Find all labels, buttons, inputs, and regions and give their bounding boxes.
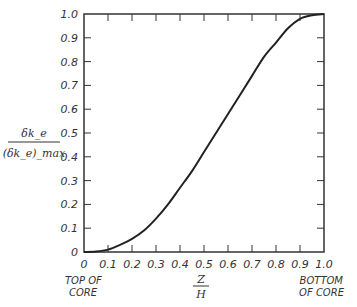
x-label-numerator: Z (196, 273, 205, 286)
x-tick-label: 0 (81, 258, 88, 271)
x-tick-label: 1.0 (315, 258, 333, 271)
x-tick-label: 0.9 (291, 258, 309, 271)
annotation-bottom-line1: BOTTOM (300, 275, 344, 286)
y-label-numerator: δk_e (21, 127, 47, 140)
x-tick-label: 0.8 (267, 258, 285, 271)
x-tick-label: 0.1 (99, 258, 117, 271)
x-tick-label: 0.3 (147, 258, 165, 271)
y-tick-label: 0.5 (61, 127, 79, 140)
plot-border (84, 14, 324, 252)
y-label-denominator: (δk_e)_max (3, 147, 66, 160)
y-tick-label: 0.9 (61, 32, 79, 45)
chart: 00.10.20.30.40.50.60.70.80.91.0 00.10.20… (0, 0, 357, 307)
annotation-top-line2: CORE (69, 287, 98, 298)
annotation-top-line1: TOP OF (65, 275, 102, 286)
x-axis-label: Z H (193, 273, 209, 301)
x-ticks: 00.10.20.30.40.50.60.70.80.91.0 (81, 14, 333, 271)
y-tick-label: 0 (71, 246, 78, 259)
y-tick-label: 0.3 (61, 175, 79, 188)
annotation-bottom-line2: OF CORE (299, 287, 345, 298)
y-axis-label: δk_e (δk_e)_max (3, 127, 66, 160)
x-tick-label: 0.4 (171, 258, 189, 271)
annotation-bottom-of-core: BOTTOM OF CORE (299, 275, 345, 298)
x-label-denominator: H (195, 288, 206, 301)
x-tick-label: 0.6 (219, 258, 237, 271)
annotation-top-of-core: TOP OF CORE (65, 275, 102, 298)
y-tick-label: 1.0 (61, 8, 79, 21)
x-tick-label: 0.5 (195, 258, 213, 271)
x-tick-label: 0.7 (243, 258, 261, 271)
y-tick-label: 0.2 (61, 198, 79, 211)
y-tick-label: 0.6 (61, 103, 79, 116)
plot-frame (84, 14, 324, 252)
y-ticks: 00.10.20.30.40.50.60.70.80.91.0 (61, 8, 325, 259)
y-tick-label: 0.8 (61, 56, 79, 69)
y-tick-label: 0.1 (61, 222, 79, 235)
y-tick-label: 0.7 (61, 79, 79, 92)
x-tick-label: 0.2 (123, 258, 141, 271)
series-line (84, 14, 324, 252)
